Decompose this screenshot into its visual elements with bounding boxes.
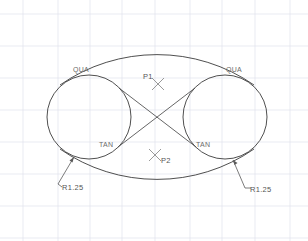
label-point-p1: P1 [143,72,153,81]
label-point-p2: P2 [161,156,171,165]
grid-background [0,0,308,241]
label-radius-right: R1.25 [250,185,272,194]
arrowhead-left [70,157,75,163]
label-qua-left: QUA [73,66,89,74]
label-radius-left: R1.25 [62,183,84,192]
envelope-arc-top [60,55,254,85]
drawing-canvas: QUA QUA TAN TAN P1 P2 R1.25 R1.25 [0,0,308,241]
label-qua-right: QUA [226,66,242,74]
label-tan-right: TAN [196,141,210,148]
marker-p1-cross [152,78,164,90]
cad-sketch: QUA QUA TAN TAN P1 P2 R1.25 R1.25 [0,0,308,241]
label-tan-left: TAN [99,141,113,148]
